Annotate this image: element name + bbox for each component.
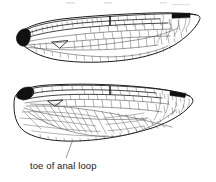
hindwing: [14, 84, 193, 141]
forewing-basal-mark: [16, 29, 30, 46]
anal-loop-leader-line: [66, 142, 72, 158]
top-crop-artifacts: [66, 2, 190, 5]
wing-diagram-svg: [0, 0, 216, 182]
anal-loop-label: toe of anal loop: [30, 160, 97, 171]
forewing-pterostigma: [172, 13, 190, 18]
forewing: [16, 13, 200, 62]
forewing-outline: [17, 13, 200, 62]
wing-venation-figure: toe of anal loop: [0, 0, 216, 182]
